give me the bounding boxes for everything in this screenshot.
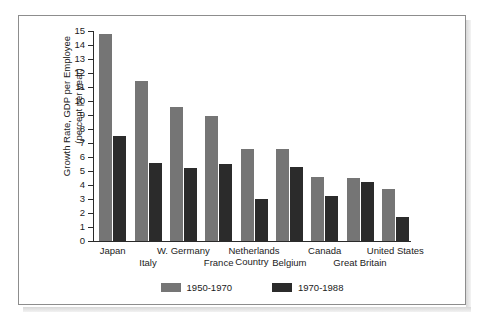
figure-frame: Growth Rate, GDP per Employee (percent p… bbox=[18, 15, 466, 305]
bar bbox=[113, 136, 126, 241]
y-tick-3: 3 bbox=[88, 199, 93, 200]
bar bbox=[361, 182, 374, 241]
bar-group bbox=[276, 31, 303, 242]
bar bbox=[170, 107, 183, 241]
y-tick-mark bbox=[88, 101, 93, 102]
bar-group bbox=[382, 31, 409, 242]
y-tick-label: 4 bbox=[80, 179, 85, 190]
x-tick-label: United States bbox=[350, 245, 440, 256]
y-tick-12: 12 bbox=[88, 73, 93, 74]
y-axis-line bbox=[93, 31, 94, 242]
y-tick-label: 15 bbox=[74, 25, 85, 36]
bar-group bbox=[170, 31, 197, 242]
bar-group bbox=[241, 31, 268, 242]
bar-group bbox=[135, 31, 162, 242]
bar bbox=[347, 178, 360, 241]
bar-group bbox=[347, 31, 374, 242]
y-tick-label: 8 bbox=[80, 123, 85, 134]
legend-swatch bbox=[161, 283, 181, 292]
y-tick-mark bbox=[88, 45, 93, 46]
bar bbox=[241, 149, 254, 241]
y-tick-13: 13 bbox=[88, 59, 93, 60]
y-tick-label: 12 bbox=[74, 67, 85, 78]
legend-label: 1950-1970 bbox=[187, 282, 232, 293]
bar-group bbox=[311, 31, 338, 242]
x-axis-title: Country bbox=[93, 256, 411, 267]
plot-area: 0123456789101112131415 JapanItalyW. Germ… bbox=[93, 31, 411, 242]
y-tick-1: 1 bbox=[88, 227, 93, 228]
bar bbox=[149, 163, 162, 241]
bar bbox=[184, 168, 197, 241]
y-tick-8: 8 bbox=[88, 129, 93, 130]
legend-label: 1970-1988 bbox=[298, 282, 343, 293]
y-tick-label: 1 bbox=[80, 221, 85, 232]
y-axis-title-line-1: Growth Rate, GDP per Employee bbox=[61, 11, 73, 201]
legend-swatch bbox=[272, 283, 292, 292]
bar bbox=[325, 196, 338, 242]
bar bbox=[396, 217, 409, 241]
y-tick-mark bbox=[88, 87, 93, 88]
y-tick-label: 7 bbox=[80, 137, 85, 148]
y-tick-2: 2 bbox=[88, 213, 93, 214]
y-tick-label: 6 bbox=[80, 151, 85, 162]
y-tick-mark bbox=[88, 227, 93, 228]
y-tick-mark bbox=[88, 73, 93, 74]
y-tick-label: 13 bbox=[74, 53, 85, 64]
y-tick-mark bbox=[88, 157, 93, 158]
y-tick-label: 0 bbox=[80, 235, 85, 246]
y-tick-mark bbox=[88, 129, 93, 130]
y-tick-label: 9 bbox=[80, 109, 85, 120]
bar bbox=[219, 164, 232, 241]
y-tick-10: 10 bbox=[88, 101, 93, 102]
y-tick-mark bbox=[88, 143, 93, 144]
y-tick-label: 11 bbox=[75, 81, 85, 92]
legend-item: 1970-1988 bbox=[272, 282, 343, 293]
y-tick-label: 2 bbox=[80, 207, 85, 218]
bar bbox=[135, 81, 148, 241]
bar bbox=[205, 116, 218, 241]
y-tick-14: 14 bbox=[88, 45, 93, 46]
legend-item: 1950-1970 bbox=[161, 282, 232, 293]
y-tick-mark bbox=[88, 59, 93, 60]
figure-shadow-bottom bbox=[23, 307, 471, 312]
bar-group bbox=[205, 31, 232, 242]
y-tick-label: 10 bbox=[74, 95, 85, 106]
bar-chart: Growth Rate, GDP per Employee (percent p… bbox=[19, 16, 467, 306]
bar bbox=[311, 177, 324, 241]
y-tick-mark bbox=[88, 171, 93, 172]
bar bbox=[290, 167, 303, 241]
y-tick-7: 7 bbox=[88, 143, 93, 144]
y-tick-0: 0 bbox=[88, 241, 93, 242]
y-tick-11: 11 bbox=[88, 87, 93, 88]
chart-legend: 1950-19701970-1988 bbox=[93, 282, 411, 293]
y-tick-5: 5 bbox=[88, 171, 93, 172]
y-tick-mark bbox=[88, 241, 93, 242]
y-tick-mark bbox=[88, 31, 93, 32]
bar bbox=[99, 34, 112, 241]
y-tick-mark bbox=[88, 115, 93, 116]
y-tick-15: 15 bbox=[88, 31, 93, 32]
y-tick-mark bbox=[88, 213, 93, 214]
y-tick-mark bbox=[88, 185, 93, 186]
bar bbox=[255, 199, 268, 241]
y-tick-label: 14 bbox=[74, 39, 85, 50]
y-tick-9: 9 bbox=[88, 115, 93, 116]
y-tick-label: 3 bbox=[80, 193, 85, 204]
y-tick-mark bbox=[88, 199, 93, 200]
y-tick-6: 6 bbox=[88, 157, 93, 158]
y-tick-label: 5 bbox=[80, 165, 85, 176]
bar bbox=[382, 189, 395, 241]
bar bbox=[276, 149, 289, 241]
y-tick-4: 4 bbox=[88, 185, 93, 186]
bar-group bbox=[99, 31, 126, 242]
